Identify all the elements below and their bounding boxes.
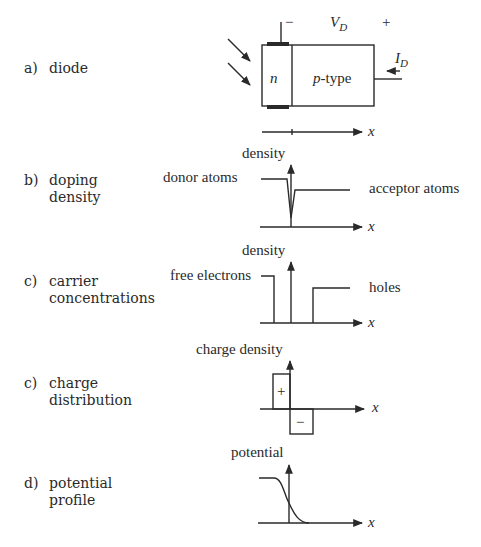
voltage-label: VD [330,14,347,33]
potential-curve [259,478,309,523]
negative-sign: − [296,414,304,430]
y-axis-label: potential [231,444,284,460]
plus-sign: + [382,14,390,30]
doping-profile-curve [261,179,350,218]
n-region-label: n [270,70,278,86]
acceptor-atoms-label: acceptor atoms [369,180,460,196]
doping-density-plot: density x donor atoms acceptor atoms [163,145,460,234]
holes-label: holes [369,279,401,295]
minus-sign: − [285,14,293,30]
top-contact [267,42,289,46]
p-region-label: p-type [312,70,352,86]
light-arrow-icon [228,63,250,85]
current-label: ID [394,50,408,69]
donor-atoms-label: donor atoms [163,169,238,185]
x-axis-label: x [367,218,375,234]
light-arrow-icon [228,39,250,61]
bottom-contact [267,105,289,109]
free-electrons-label: free electrons [170,267,251,283]
x-axis-label: x [371,399,379,415]
x-axis-label: x [367,314,375,330]
charge-distribution-plot: charge density x + − [196,341,379,434]
positive-sign: + [277,383,285,399]
potential-profile-plot: potential x [231,444,375,530]
y-axis-label: density [242,242,286,258]
carrier-concentration-plot: density x free electrons holes [170,242,401,330]
y-axis-label: density [242,145,286,161]
hole-concentration-curve [313,288,350,323]
x-axis-label: x [367,123,375,139]
x-axis-label: x [367,514,375,530]
y-axis-label: charge density [196,341,283,357]
electron-concentration-curve [261,276,274,323]
pn-junction-diagram: n p-type − + VD ID x density x donor ato… [0,0,481,547]
diode-illustration: n p-type − + VD ID x [228,14,408,139]
